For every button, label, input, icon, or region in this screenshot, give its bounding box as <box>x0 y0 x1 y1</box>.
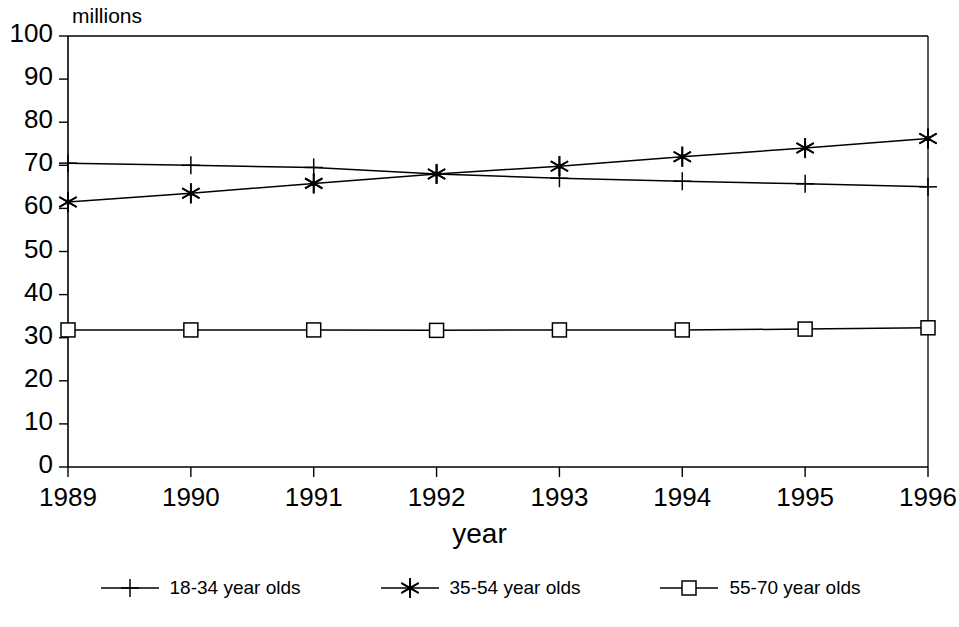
y-axis-tick-label: 90 <box>24 61 53 92</box>
legend-label: 35-54 year olds <box>450 577 581 599</box>
y-axis-tick-label: 20 <box>24 363 53 394</box>
legend-item[interactable]: 55-70 year olds <box>658 575 860 601</box>
square-marker <box>682 581 696 595</box>
y-axis-tick-label: 10 <box>24 406 53 437</box>
y-axis-tick-label: 60 <box>24 190 53 221</box>
asterisk-marker <box>407 585 412 590</box>
legend-label: 55-70 year olds <box>729 577 860 599</box>
asterisk-marker <box>557 164 562 169</box>
asterisk-marker <box>803 145 808 150</box>
x-axis-tick-label: 1994 <box>622 482 742 513</box>
legend-item[interactable]: 35-54 year olds <box>379 575 581 601</box>
asterisk-marker <box>65 199 70 204</box>
x-axis-tick-label: 1989 <box>8 482 128 513</box>
y-axis-tick-label: 70 <box>24 147 53 178</box>
square-marker <box>675 323 689 337</box>
square-marker <box>552 323 566 337</box>
legend-label: 18-34 year olds <box>170 577 301 599</box>
asterisk-marker <box>311 181 316 186</box>
x-axis-tick-label: 1990 <box>131 482 251 513</box>
asterisk-marker <box>925 136 930 141</box>
square-marker <box>430 323 444 337</box>
asterisk-marker <box>680 154 685 159</box>
square-marker <box>61 323 75 337</box>
y-axis-tick-label: 30 <box>24 320 53 351</box>
asterisk-marker <box>379 575 441 601</box>
legend-item[interactable]: 18-34 year olds <box>99 575 301 601</box>
asterisk-marker <box>188 191 193 196</box>
square-marker <box>798 322 812 336</box>
square-marker <box>307 323 321 337</box>
y-axis-tick-label: 80 <box>24 104 53 135</box>
x-axis-title: year <box>0 518 959 550</box>
y-axis-tick-label: 50 <box>24 234 53 265</box>
square-marker <box>921 321 935 335</box>
asterisk-marker <box>434 171 439 176</box>
y-axis-tick-label: 0 <box>39 449 53 480</box>
series-3 <box>61 321 935 338</box>
x-axis-tick-label: 1992 <box>377 482 497 513</box>
x-axis-tick-label: 1991 <box>254 482 374 513</box>
x-axis-tick-label: 1993 <box>499 482 619 513</box>
square-marker <box>658 575 720 601</box>
y-axis-tick-label: 40 <box>24 277 53 308</box>
y-axis-tick-label: 100 <box>10 18 53 49</box>
square-marker <box>184 323 198 337</box>
x-axis-tick-label: 1996 <box>868 482 959 513</box>
line-chart: millions 0102030405060708090100 19891990… <box>0 0 959 627</box>
plus-marker <box>99 575 161 601</box>
chart-legend: 18-34 year olds35-54 year olds55-70 year… <box>0 575 959 601</box>
x-axis-tick-label: 1995 <box>745 482 865 513</box>
series-line <box>68 139 928 202</box>
